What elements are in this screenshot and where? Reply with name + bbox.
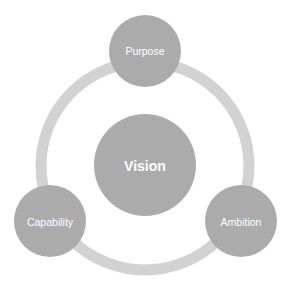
node-label-capability: Capability [27, 216, 74, 228]
node-label-purpose: Purpose [125, 45, 164, 57]
node-capability: Capability [14, 185, 86, 257]
center-node-label: Vision [124, 158, 166, 174]
node-ambition: Ambition [205, 185, 277, 257]
node-purpose: Purpose [109, 15, 181, 87]
vision-cycle-diagram: Vision Purpose Capability Ambition [0, 0, 290, 294]
center-node-vision: Vision [94, 114, 196, 216]
node-label-ambition: Ambition [221, 216, 262, 228]
